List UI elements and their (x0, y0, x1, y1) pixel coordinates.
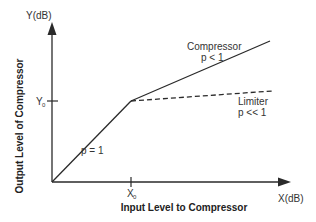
x-axis-label: X(dB) (278, 193, 304, 204)
y-axis-arrow-icon (48, 22, 57, 35)
limiter-name-label: Limiter (238, 96, 269, 107)
compressor-ratio-label: p < 1 (201, 52, 224, 63)
svg-text:0: 0 (42, 102, 46, 108)
y0-label: Y 0 (36, 96, 46, 108)
x-axis-title: Input Level to Compressor (121, 202, 248, 213)
unity-gain-line (52, 101, 131, 182)
compressor-name-label: Compressor (187, 41, 242, 52)
y-axis-title: Output Level of Compressor (14, 58, 25, 193)
unity-gain-label: p = 1 (81, 145, 104, 156)
x-axis-arrow-icon (278, 178, 291, 187)
y-axis-label: Y(dB) (26, 10, 52, 21)
compressor-transfer-diagram: Y(dB) X(dB) Output Level of Compressor I… (0, 0, 316, 222)
y-axis (48, 22, 57, 182)
x0-label: X 0 (127, 188, 137, 200)
limiter-ratio-label: p << 1 (238, 107, 267, 118)
x-axis (52, 178, 291, 187)
svg-text:0: 0 (133, 194, 137, 200)
